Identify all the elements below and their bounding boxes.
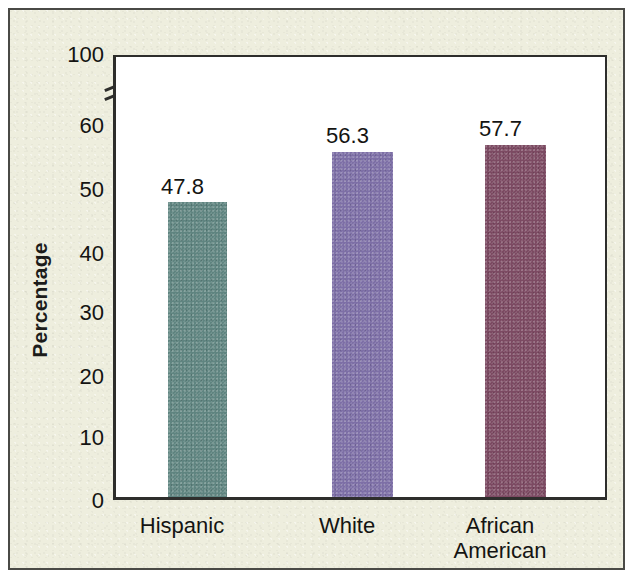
- y-tick-label-100: 100: [52, 44, 104, 66]
- bar-value-white: 56.3: [300, 125, 395, 147]
- category-label-white: White: [282, 513, 412, 538]
- bar-hispanic[interactable]: [168, 202, 227, 497]
- y-tick-label-0: 0: [52, 490, 104, 512]
- y-tick-label-30: 30: [52, 302, 104, 324]
- y-tick-label-10: 10: [52, 427, 104, 449]
- bar-chart-figure: Percentage 100 60 50 40 30 20 10 0 47.8 …: [0, 0, 633, 578]
- bar-value-african-american: 57.7: [453, 118, 548, 140]
- bar-african-american[interactable]: [485, 145, 546, 497]
- y-axis-tick-labels: 100 60 50 40 30 20 10 0: [46, 0, 104, 578]
- y-tick-label-20: 20: [52, 366, 104, 388]
- y-tick-label-60: 60: [52, 115, 104, 137]
- y-tick-label-50: 50: [52, 179, 104, 201]
- y-tick-label-40: 40: [52, 243, 104, 265]
- category-label-hispanic: Hispanic: [117, 513, 247, 538]
- bar-white[interactable]: [332, 152, 393, 497]
- bar-value-hispanic: 47.8: [135, 176, 230, 198]
- category-label-african-american: African American: [435, 513, 565, 564]
